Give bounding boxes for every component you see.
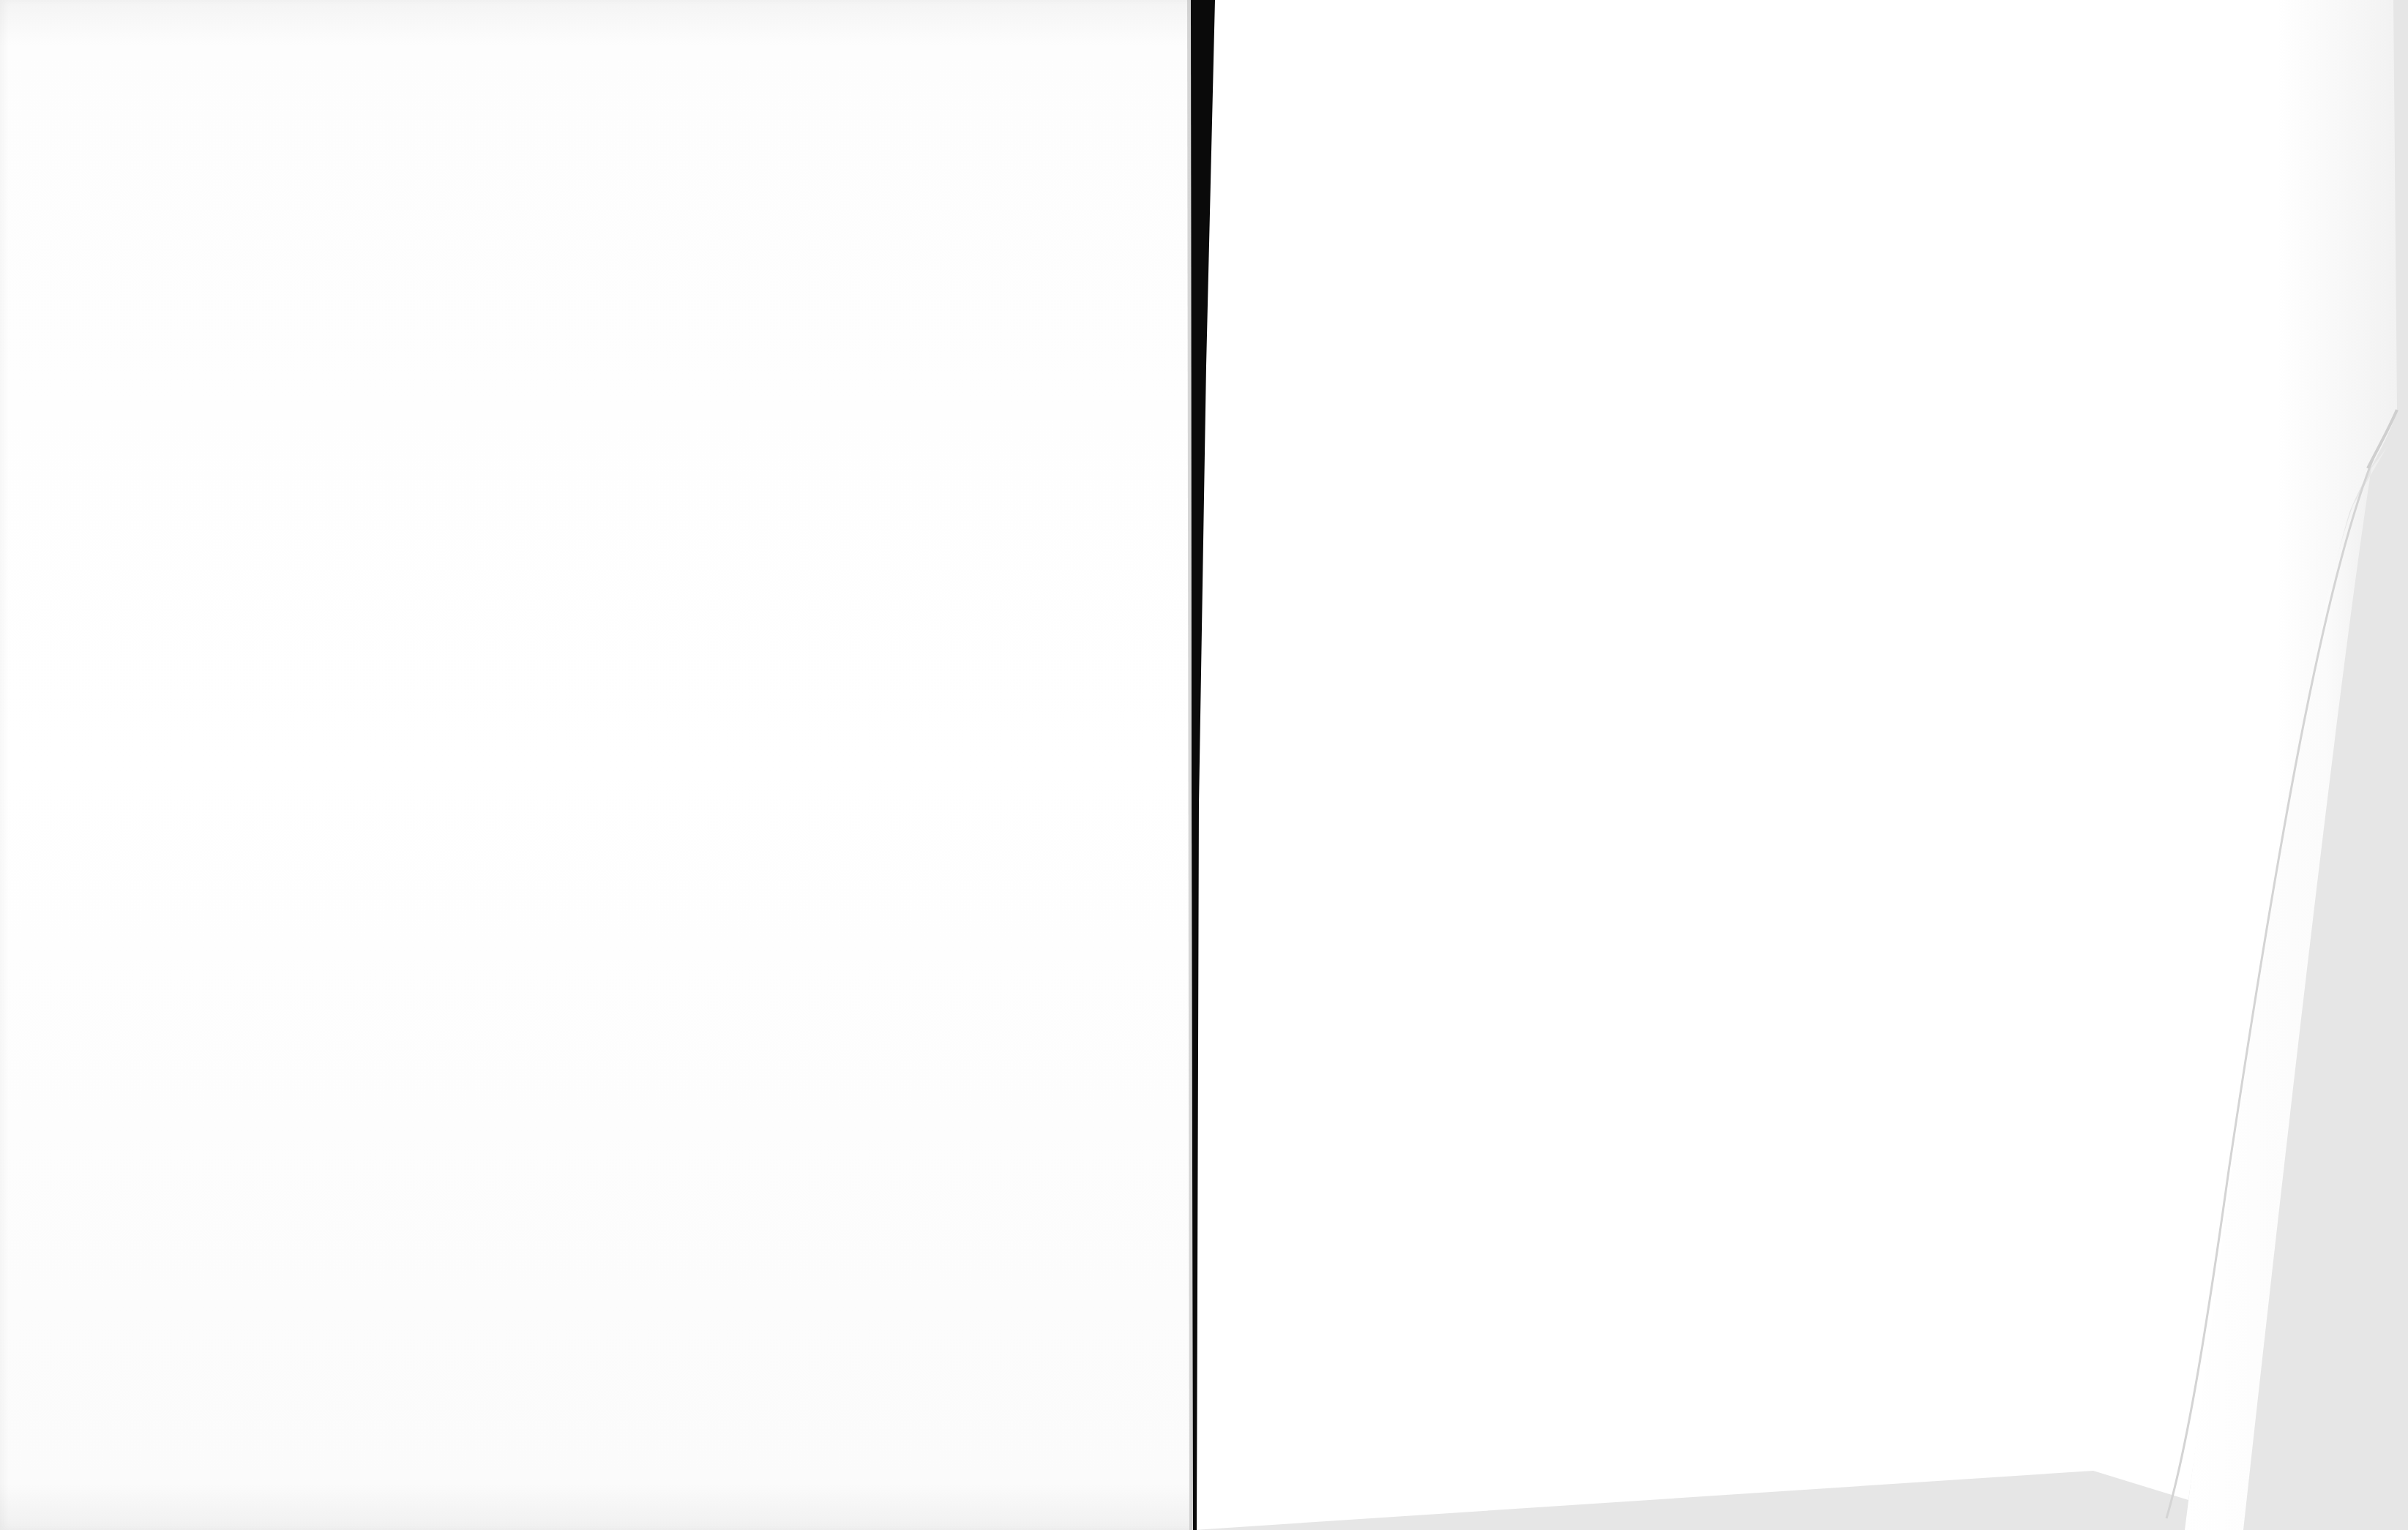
scanned-book-spread	[0, 0, 2408, 1530]
right-page	[0, 0, 2408, 1530]
